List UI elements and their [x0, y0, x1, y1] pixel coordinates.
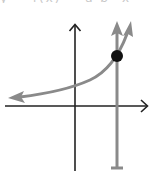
y-axis	[70, 25, 81, 172]
exponential-graph	[0, 0, 164, 171]
x-axis	[5, 100, 148, 112]
intersection-point	[111, 50, 123, 62]
vertical-line	[111, 21, 123, 168]
